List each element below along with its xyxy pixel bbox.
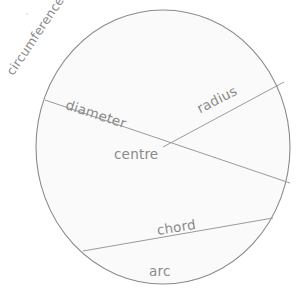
circle-diagram-canvas: circumference diameter radius centre cho… [0,0,301,294]
stray-speck [26,13,28,15]
label-centre: centre [114,148,158,162]
label-arc: arc [149,265,171,279]
